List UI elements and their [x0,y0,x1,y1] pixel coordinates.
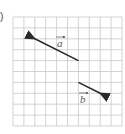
part-marker: ) [0,11,3,22]
grid-figure: ) ab [0,0,125,134]
vector-diagram: ) ab [0,0,125,134]
grid [13,17,122,126]
vector-a-label: a [57,37,63,49]
vector-b-label: b [80,93,86,105]
